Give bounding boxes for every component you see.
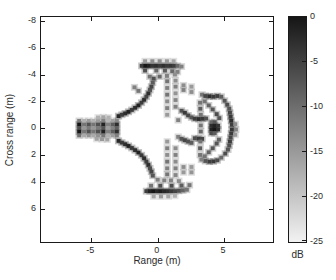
colorbar-tick-label: -20 bbox=[310, 191, 323, 201]
plot-area bbox=[40, 16, 274, 243]
colorbar-tick-mark bbox=[302, 61, 306, 62]
colorbar-tick-label: -5 bbox=[310, 56, 318, 66]
colorbar-tick-mark bbox=[302, 196, 306, 197]
colorbar-tick-mark bbox=[302, 240, 306, 241]
colorbar-tick-label: 0 bbox=[310, 11, 315, 21]
colorbar-tick-label: -25 bbox=[310, 236, 323, 246]
colorbar-tick-mark bbox=[302, 18, 306, 19]
y-tick-label: 0 bbox=[10, 122, 36, 132]
y-tick-label: -6 bbox=[10, 42, 36, 52]
y-tick-label: 4 bbox=[10, 176, 36, 186]
colorbar-tick-mark bbox=[302, 106, 306, 107]
isar-figure: Cross range (m) -8-6-4-20246 -505 Range … bbox=[0, 0, 336, 280]
y-tick-label: -2 bbox=[10, 95, 36, 105]
colorbar bbox=[288, 16, 307, 243]
colorbar-tick-mark bbox=[302, 151, 306, 152]
colorbar-tick-label: -15 bbox=[310, 146, 323, 156]
x-tick-label: 0 bbox=[142, 245, 172, 255]
y-tick-label: 6 bbox=[10, 203, 36, 213]
y-tick-label: 2 bbox=[10, 149, 36, 159]
x-axis-label: Range (m) bbox=[107, 255, 207, 266]
y-tick-label: -4 bbox=[10, 69, 36, 79]
heatmap-canvas bbox=[41, 17, 273, 242]
x-tick-label: -5 bbox=[75, 245, 105, 255]
y-tick-label: -8 bbox=[10, 15, 36, 25]
colorbar-tick-label: -10 bbox=[310, 101, 323, 111]
x-tick-label: 5 bbox=[208, 245, 238, 255]
colorbar-unit-label: dB bbox=[284, 249, 311, 260]
